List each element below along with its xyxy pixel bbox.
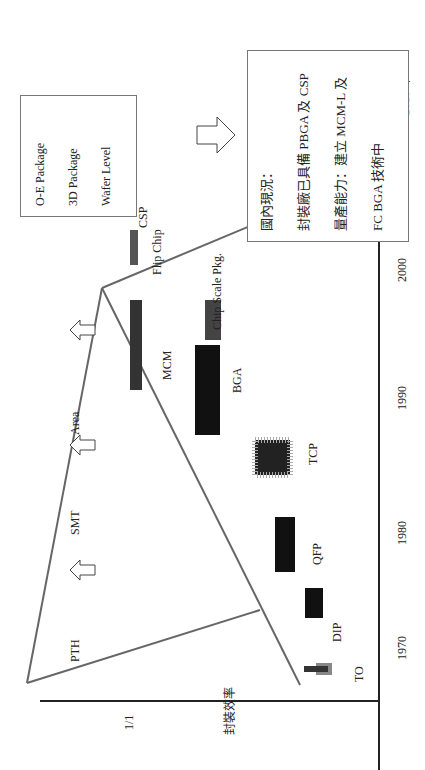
future-item: O-E Package bbox=[33, 143, 48, 206]
status-line: 封裝廠已具備 PBGA 及 CSP bbox=[293, 73, 312, 231]
pkg-qfp: QFP bbox=[310, 543, 325, 565]
pkg-csp: CSP bbox=[136, 207, 151, 228]
pkg-chip-scale: Chip Scale Pkg. bbox=[210, 253, 225, 330]
future-box: O-E Package 3D Package Wafer Level bbox=[20, 95, 137, 217]
pkg-tcp: TCP bbox=[306, 443, 321, 465]
era-smt: SMT bbox=[68, 510, 83, 535]
x-tick-1990: 1990 bbox=[395, 386, 410, 410]
y-axis-tick: 1/1 bbox=[122, 715, 137, 730]
y-axis-line bbox=[40, 700, 380, 702]
status-box: 國內現況： 封裝廠已具備 PBGA 及 CSP 量產能力：建立 MCM-L 及 … bbox=[247, 50, 409, 242]
future-item: 3D Package bbox=[66, 148, 81, 206]
x-tick-1980: 1980 bbox=[395, 521, 410, 545]
x-tick-2000: 2000 bbox=[395, 258, 410, 282]
pkg-to: TO bbox=[352, 666, 367, 682]
status-line: 量產能力：建立 MCM-L 及 bbox=[330, 77, 349, 231]
status-line: FC BGA 技術中 bbox=[367, 143, 386, 231]
pkg-flip-chip: Flip Chip bbox=[150, 229, 165, 275]
future-item: Wafer Level bbox=[99, 147, 114, 206]
y-axis-label: 封裝效率 bbox=[220, 687, 238, 735]
pkg-mcm: MCM bbox=[160, 351, 175, 380]
pkg-dip: DIP bbox=[330, 623, 345, 642]
x-tick-1970: 1970 bbox=[395, 636, 410, 660]
pkg-bga: BGA bbox=[230, 368, 245, 393]
status-line: 國內現況： bbox=[256, 166, 275, 231]
era-area: Area bbox=[68, 412, 83, 435]
era-pth: PTH bbox=[68, 639, 83, 662]
x-axis-line bbox=[378, 170, 380, 770]
